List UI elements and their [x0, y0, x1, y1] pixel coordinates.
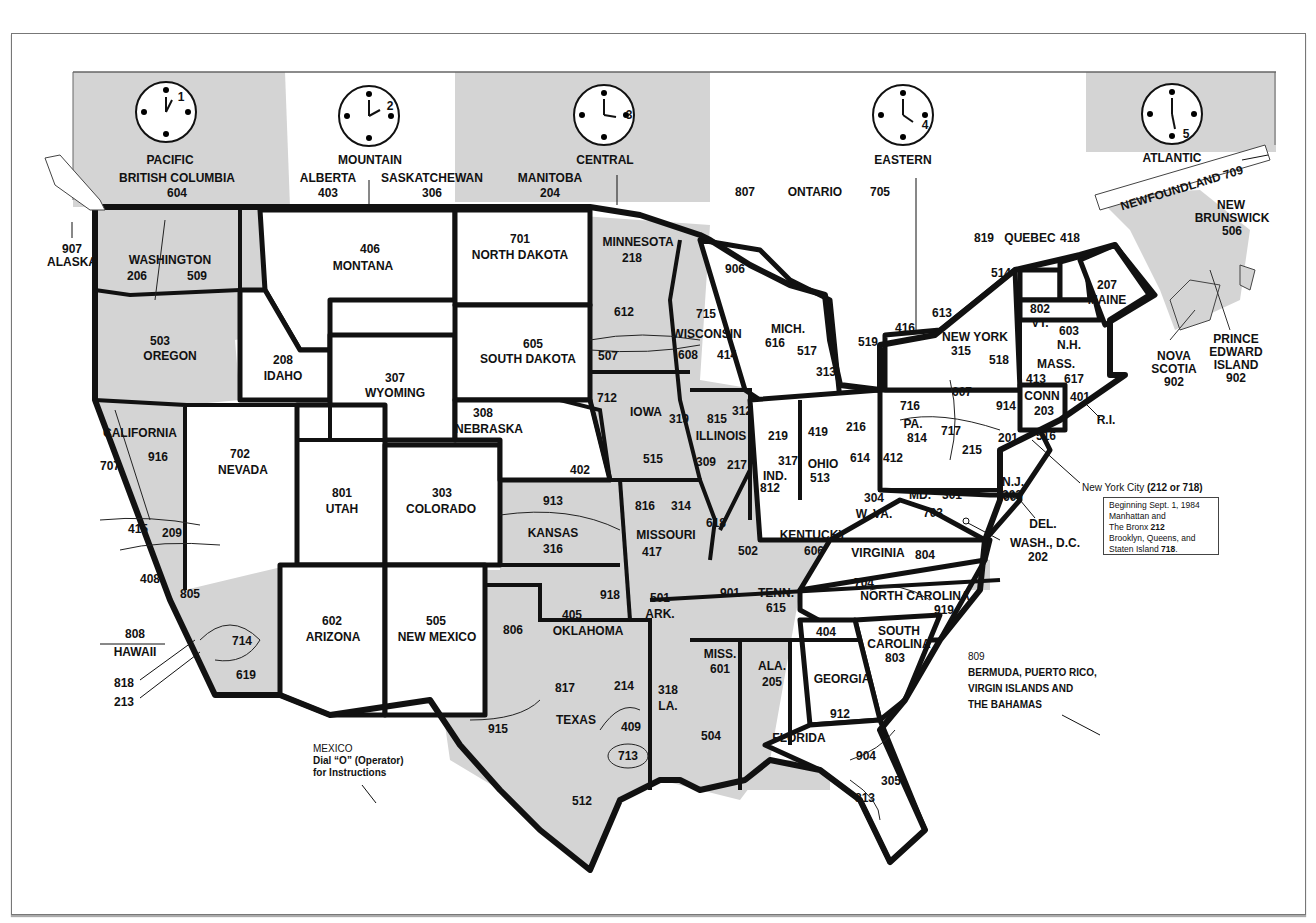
svg-text:717: 717 — [941, 424, 961, 438]
svg-text:614: 614 — [850, 451, 870, 465]
svg-text:513: 513 — [810, 471, 830, 485]
label-new-brunswick: BRUNSWICK — [1195, 211, 1270, 225]
svg-text:518: 518 — [989, 353, 1009, 367]
svg-text:918: 918 — [600, 588, 620, 602]
label-wyoming: WYOMING — [365, 386, 425, 400]
svg-text:602: 602 — [322, 614, 342, 628]
svg-text:609: 609 — [1003, 490, 1023, 504]
label-maryland: MD. — [909, 488, 931, 502]
clock-atlantic-icon — [1142, 84, 1202, 144]
label-oregon: OREGON — [143, 349, 196, 363]
svg-text:307: 307 — [385, 371, 405, 385]
svg-text:819: 819 — [974, 231, 994, 245]
label-arkansas: ARK. — [645, 607, 674, 621]
svg-text:603: 603 — [1059, 324, 1079, 338]
caribbean-note: BERMUDA, PUERTO RICO, — [968, 667, 1097, 678]
svg-text:703: 703 — [923, 506, 943, 520]
label-west-virginia: W. VA. — [856, 507, 892, 521]
svg-text:817: 817 — [555, 681, 575, 695]
svg-text:THE BAHAMAS: THE BAHAMAS — [968, 699, 1042, 710]
svg-text:301: 301 — [942, 488, 962, 502]
label-alberta: ALBERTA — [300, 171, 357, 185]
label-south-dakota: SOUTH DAKOTA — [480, 352, 576, 366]
label-virginia: VIRGINIA — [851, 546, 905, 560]
label-delaware: DEL. — [1029, 517, 1056, 531]
label-new-york: NEW YORK — [942, 330, 1008, 344]
clock-hour-atlantic: 5 — [1183, 127, 1190, 141]
label-wisconsin: WISCONSIN — [672, 327, 741, 341]
label-manitoba: MANITOBA — [518, 171, 583, 185]
label-north-dakota: NORTH DAKOTA — [472, 248, 569, 262]
svg-text:415: 415 — [128, 522, 148, 536]
svg-text:303: 303 — [432, 486, 452, 500]
svg-text:506: 506 — [1222, 224, 1242, 238]
svg-text:701: 701 — [510, 232, 530, 246]
svg-text:417: 417 — [642, 545, 662, 559]
svg-text:517: 517 — [797, 344, 817, 358]
label-new-jersey: N.J. — [1002, 475, 1024, 489]
svg-text:716: 716 — [900, 399, 920, 413]
label-florida: FLORIDA — [772, 731, 826, 745]
svg-text:808: 808 — [125, 627, 145, 641]
svg-text:707: 707 — [100, 459, 120, 473]
label-michigan: MICH. — [771, 322, 805, 336]
label-new-hampshire: N.H. — [1057, 338, 1081, 352]
tz-mountain: MOUNTAIN — [338, 153, 402, 167]
svg-text:816: 816 — [635, 499, 655, 513]
svg-text:512: 512 — [572, 794, 592, 808]
svg-text:319: 319 — [669, 412, 689, 426]
label-kentucky: KENTUCKY — [780, 528, 847, 542]
svg-text:VIRGIN ISLANDS AND: VIRGIN ISLANDS AND — [968, 683, 1073, 694]
svg-text:406: 406 — [360, 242, 380, 256]
timezone-bands — [73, 72, 1276, 207]
svg-text:403: 403 — [318, 186, 338, 200]
svg-text:813: 813 — [855, 791, 875, 805]
svg-text:505: 505 — [426, 614, 446, 628]
svg-text:317: 317 — [778, 454, 798, 468]
svg-text:Dial “O” (Operator): Dial “O” (Operator) — [313, 755, 404, 766]
svg-text:912: 912 — [830, 707, 850, 721]
label-south-carolina: CAROLINA — [867, 637, 931, 651]
svg-text:308: 308 — [473, 406, 493, 420]
svg-text:509: 509 — [187, 269, 207, 283]
svg-text:NOVA: NOVA — [1157, 349, 1191, 363]
svg-text:607: 607 — [952, 385, 972, 399]
svg-text:412: 412 — [883, 451, 903, 465]
svg-text:501: 501 — [650, 591, 670, 605]
label-oklahoma: OKLAHOMA — [553, 624, 624, 638]
label-texas: TEXAS — [556, 713, 596, 727]
label-mississippi: MISS. — [704, 647, 737, 661]
clock-hour-eastern: 4 — [922, 118, 929, 132]
label-nevada: NEVADA — [218, 463, 268, 477]
svg-text:704: 704 — [854, 576, 874, 590]
svg-text:215: 215 — [962, 443, 982, 457]
state-vermont — [1020, 270, 1060, 300]
svg-text:202: 202 — [1028, 550, 1048, 564]
svg-text:405: 405 — [562, 608, 582, 622]
label-massachusetts: MASS. — [1037, 357, 1075, 371]
svg-text:902: 902 — [1226, 371, 1246, 385]
svg-text:702: 702 — [230, 447, 250, 461]
svg-text:218: 218 — [622, 251, 642, 265]
svg-text:901: 901 — [720, 586, 740, 600]
svg-text:516: 516 — [1036, 429, 1056, 443]
svg-text:919: 919 — [934, 603, 954, 617]
svg-text:815: 815 — [707, 412, 727, 426]
svg-text:612: 612 — [614, 305, 634, 319]
svg-text:216: 216 — [846, 420, 866, 434]
svg-text:807: 807 — [735, 185, 755, 199]
svg-text:219: 219 — [768, 429, 788, 443]
label-connecticut: CONN — [1024, 389, 1059, 403]
label-vermont: VT. — [1031, 316, 1048, 330]
svg-text:906: 906 — [725, 262, 745, 276]
label-idaho: IDAHO — [264, 369, 303, 383]
svg-text:604: 604 — [167, 186, 187, 200]
svg-text:818: 818 — [114, 676, 134, 690]
svg-text:902: 902 — [1164, 375, 1184, 389]
svg-text:217: 217 — [727, 458, 747, 472]
svg-text:606: 606 — [804, 544, 824, 558]
svg-text:207: 207 — [1097, 278, 1117, 292]
clock-hour-pacific: 1 — [178, 90, 185, 104]
tz-pacific: PACIFIC — [146, 153, 193, 167]
label-kansas: KANSAS — [528, 526, 579, 540]
